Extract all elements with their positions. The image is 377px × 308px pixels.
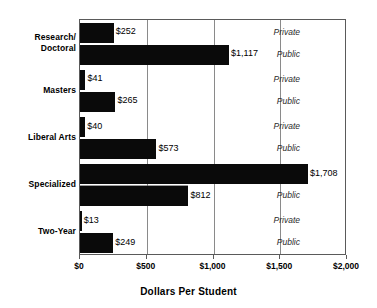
x-axis-tick-label: $1,500 [266, 261, 292, 271]
x-axis-tick [346, 255, 347, 259]
x-axis-tick [279, 255, 280, 259]
bar [80, 70, 85, 90]
sector-label-public: Public [240, 237, 300, 247]
x-axis-tick [146, 255, 147, 259]
bar-value-label: $252 [115, 26, 137, 37]
bar [80, 164, 308, 184]
category-label: Two-Year [38, 226, 76, 237]
bar-chart: Dollars Per Student $252Private$1,117Pub… [0, 0, 377, 308]
sector-label-public: Public [240, 49, 300, 59]
bar-value-label: $812 [189, 190, 211, 201]
category-label: Liberal Arts [28, 132, 76, 143]
x-axis-tick [79, 255, 80, 259]
sector-label-private: Private [240, 215, 300, 225]
bar [80, 211, 82, 231]
x-axis-tick [213, 255, 214, 259]
sector-label-private: Private [240, 74, 300, 84]
bar-value-label: $265 [116, 95, 138, 106]
sector-label-private: Private [240, 121, 300, 131]
category-label: Masters [43, 85, 76, 96]
bar-value-label: $13 [83, 215, 100, 226]
category-label: Research/ Doctoral [34, 32, 76, 53]
bar [80, 186, 188, 206]
plot-area [79, 19, 346, 255]
bar [80, 139, 156, 159]
x-axis-title: Dollars Per Student [0, 286, 377, 297]
bar [80, 23, 114, 43]
bar [80, 233, 113, 253]
bar-value-label: $249 [114, 237, 136, 248]
sector-label-public: Public [240, 190, 300, 200]
sector-label-public: Public [240, 96, 300, 106]
bar [80, 45, 229, 65]
sector-label-private: Private [240, 27, 300, 37]
bar [80, 92, 115, 112]
x-axis-tick-label: $2,000 [333, 261, 359, 271]
x-axis-tick-label: $500 [136, 261, 155, 271]
category-label: Specialized [29, 179, 76, 190]
x-axis-tick-label: $0 [74, 261, 83, 271]
bar-separator [80, 185, 188, 186]
bar-value-label: $573 [157, 143, 179, 154]
bar [80, 117, 85, 137]
bar-value-label: $40 [86, 121, 103, 132]
bar-value-label: $1,708 [309, 168, 339, 179]
x-axis-tick-label: $1,000 [200, 261, 226, 271]
bar-value-label: $41 [86, 73, 103, 84]
sector-label-public: Public [240, 143, 300, 153]
